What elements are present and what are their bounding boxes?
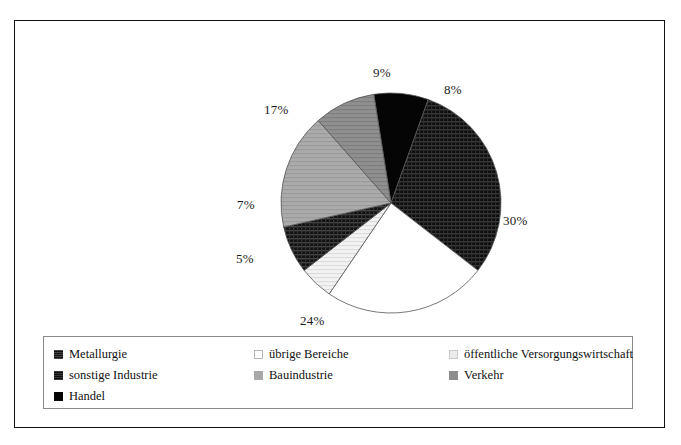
legend-label: Bauindustrie (269, 369, 333, 382)
legend-item[interactable]: Metallurgie (54, 344, 254, 365)
legend-grid: Metallurgieübrige Bereicheöffentliche Ve… (54, 344, 629, 407)
legend-label: Handel (69, 390, 105, 403)
legend-item[interactable]: Handel (54, 386, 254, 407)
legend-label: öffentliche Versorgungswirtschaft (464, 348, 633, 361)
legend-label: Metallurgie (69, 348, 127, 361)
pie-slice-label: 7% (237, 197, 255, 213)
pie-slice-label: 9% (373, 65, 391, 81)
pie-slice-label: 24% (300, 313, 324, 329)
figure-frame: 8%30%24%5%7%17%9% Metallurgieübrige Bere… (14, 20, 665, 428)
legend-item[interactable]: Bauindustrie (254, 365, 449, 386)
legend-swatch-icon (54, 350, 63, 359)
pie-slice-label: 17% (264, 102, 288, 118)
legend-swatch-icon (449, 350, 458, 359)
legend-row: Metallurgieübrige Bereicheöffentliche Ve… (54, 344, 629, 365)
pie-chart-area: 8%30%24%5%7%17%9% (15, 21, 664, 321)
legend-item[interactable]: Verkehr (449, 365, 629, 386)
chart-legend: Metallurgieübrige Bereicheöffentliche Ve… (43, 336, 633, 409)
legend-label: übrige Bereiche (269, 348, 348, 361)
legend-row: Handel (54, 386, 629, 407)
legend-label: sonstige Industrie (69, 369, 158, 382)
legend-swatch-icon (449, 371, 458, 380)
pie-slice-label: 8% (444, 82, 462, 98)
pie-slice-label: 5% (236, 251, 254, 267)
legend-swatch-icon (254, 350, 263, 359)
legend-item[interactable]: sonstige Industrie (54, 365, 254, 386)
legend-label: Verkehr (464, 369, 504, 382)
legend-swatch-icon (254, 371, 263, 380)
legend-row: sonstige IndustrieBauindustrieVerkehr (54, 365, 629, 386)
legend-swatch-icon (54, 371, 63, 380)
pie-chart-svg (15, 21, 666, 321)
pie-slices-group (281, 93, 501, 313)
legend-item[interactable]: übrige Bereiche (254, 344, 449, 365)
legend-item[interactable]: öffentliche Versorgungswirtschaft (449, 344, 629, 365)
legend-swatch-icon (54, 392, 63, 401)
pie-slice-label: 30% (503, 213, 527, 229)
